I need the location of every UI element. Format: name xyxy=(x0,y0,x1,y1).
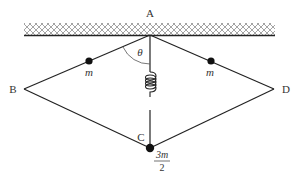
mass-bottom-dot xyxy=(146,144,154,152)
rod-DC xyxy=(150,89,274,148)
rods xyxy=(24,35,274,148)
label-mass-left: m xyxy=(85,66,93,78)
label-mass-right: m xyxy=(206,66,214,78)
ceiling-hatch xyxy=(24,23,275,35)
label-theta: θ xyxy=(137,46,143,58)
spring-icon xyxy=(146,72,157,97)
label-D: D xyxy=(282,83,290,95)
diagram-canvas: A B D C θ m m 3m 2 xyxy=(0,0,300,174)
mass-bottom-denominator: 2 xyxy=(160,162,165,173)
rod-BC xyxy=(24,89,150,148)
label-A: A xyxy=(146,7,154,19)
mass-left-dot xyxy=(85,57,92,64)
mass-right-dot xyxy=(207,57,214,64)
label-mass-bottom: 3m 2 xyxy=(154,149,170,173)
mass-bottom-numerator: 3m xyxy=(155,149,168,160)
label-B: B xyxy=(9,83,16,95)
ceiling xyxy=(24,23,275,36)
label-C: C xyxy=(137,131,144,143)
